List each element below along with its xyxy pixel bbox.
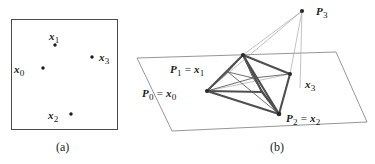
label-P2-eq-x2: P2 = x2: [286, 112, 321, 127]
label-P0-base: P: [142, 87, 149, 99]
label-x3-panel-a: x3: [99, 51, 109, 66]
caption-panel-a: (a): [56, 140, 69, 155]
figure-container: x0 x1 x2 x3 (a) P1 = x1 P0 = x0 P2 = x2 …: [0, 0, 375, 164]
point-dot-x2: [69, 112, 72, 115]
caption-panel-b: (b): [270, 140, 284, 155]
label-eq-0: =: [154, 87, 166, 99]
label-x2b-sub: 2: [316, 117, 321, 127]
vertex-dot-x3: [288, 72, 292, 76]
point-dot-x3: [90, 55, 93, 58]
vertex-dot-P2: [277, 112, 282, 117]
panel-a-group: [12, 20, 118, 130]
panel-a-box: [12, 20, 118, 130]
label-x0: x0: [14, 63, 24, 78]
label-x1b-sub: 1: [200, 68, 205, 78]
label-x1-sub: 1: [55, 35, 60, 45]
label-P1-eq-x1: P1 = x1: [170, 63, 205, 78]
vertex-dot-P3: [300, 9, 304, 13]
label-x3b-sub: 3: [311, 83, 316, 93]
label-P0-eq-x0: P0 = x0: [142, 87, 177, 102]
label-x2: x2: [48, 109, 58, 124]
vertex-dot-P1: [241, 53, 245, 57]
thick-edge-P0-midlow: [207, 91, 262, 92]
label-P3-sub: 3: [323, 10, 328, 20]
label-x3-panel-b: x3: [305, 78, 315, 93]
label-eq-1: =: [182, 63, 194, 75]
label-P3: P3: [316, 5, 328, 20]
label-P3-base: P: [316, 5, 323, 17]
label-x3a-sub: 3: [105, 56, 110, 66]
thin-edge-P3-P1: [243, 11, 302, 55]
label-P2-base: P: [286, 112, 293, 124]
point-dot-x0: [41, 66, 44, 69]
label-x2-sub: 2: [54, 114, 59, 124]
label-x0-sub: 0: [20, 68, 25, 78]
label-P1-base: P: [170, 63, 177, 75]
vertex-dot-P0: [205, 89, 209, 93]
label-x0b-sub: 0: [172, 92, 177, 102]
label-eq-2: =: [298, 112, 310, 124]
label-x1: x1: [49, 30, 59, 45]
